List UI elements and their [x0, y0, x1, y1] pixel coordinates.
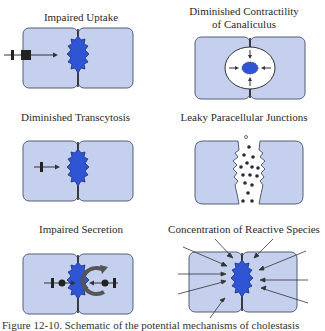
figure-caption: Figure 12-10. Schematic of the potential…	[2, 319, 299, 331]
transporter-blocked-icon	[21, 50, 31, 60]
blocked-vesicle-icon	[40, 162, 43, 172]
reactive-species-diagram	[163, 210, 325, 327]
contractility-diagram	[163, 0, 325, 105]
leaking-particles-icon	[239, 136, 260, 203]
panel-reactive-species: Concentration of Reactive Species	[163, 210, 325, 315]
transporter-icon	[59, 280, 66, 287]
transcytosis-diagram	[0, 105, 162, 210]
impaired-secretion-diagram	[0, 210, 162, 327]
panel-diminished-contractility: Diminished Contractility of Canaliculus	[163, 0, 325, 105]
transporter-icon	[102, 280, 109, 287]
panel-diminished-transcytosis: Diminished Transcytosis	[0, 105, 162, 210]
leaky-junctions-diagram	[163, 105, 325, 210]
panel-impaired-secretion: Impaired Secretion	[0, 210, 162, 315]
impaired-uptake-diagram	[0, 0, 162, 105]
panel-impaired-uptake: Impaired Uptake	[0, 0, 162, 105]
canaliculus-icon	[242, 62, 258, 74]
panel-leaky-junctions: Leaky Paracellular Junctions	[163, 105, 325, 210]
